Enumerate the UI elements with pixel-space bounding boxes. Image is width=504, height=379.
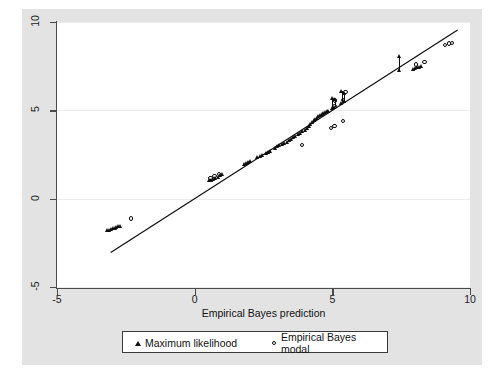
data-point-empirical-bayes-modal bbox=[217, 172, 221, 176]
data-point-maximum-likelihood bbox=[397, 68, 401, 72]
x-axis-title: Empirical Bayes prediction bbox=[57, 307, 470, 319]
gridline-y-0 bbox=[57, 199, 470, 200]
data-point-empirical-bayes-modal bbox=[332, 104, 336, 108]
y-tick-5 bbox=[50, 110, 56, 111]
y-tick-10 bbox=[50, 22, 56, 23]
data-point-maximum-likelihood bbox=[268, 149, 272, 153]
circle-marker-icon bbox=[267, 341, 281, 346]
y-tick--5 bbox=[50, 287, 56, 288]
x-tick-label-0: 0 bbox=[175, 293, 215, 305]
x-axis-line bbox=[56, 288, 471, 289]
y-axis-line bbox=[56, 21, 57, 288]
data-point-maximum-likelihood bbox=[248, 159, 252, 163]
x-tick-label-10: 10 bbox=[450, 293, 490, 305]
gridline-y-10 bbox=[57, 22, 470, 23]
legend-label-maximum-likelihood: Maximum likelihood bbox=[145, 337, 237, 349]
data-point-empirical-bayes-modal bbox=[333, 98, 337, 102]
x-tick-label-5: 5 bbox=[312, 293, 352, 305]
chart-legend: Maximum likelihood Empirical Bayes modal bbox=[122, 331, 388, 353]
y-tick-0 bbox=[50, 199, 56, 200]
x-tick-label--5: -5 bbox=[37, 293, 77, 305]
data-point-empirical-bayes-modal bbox=[341, 119, 345, 123]
data-point-empirical-bayes-modal bbox=[343, 90, 347, 94]
data-point-maximum-likelihood bbox=[397, 54, 401, 58]
y-tick-label-5: 5 bbox=[29, 96, 41, 122]
figure-root: -50510 -50510 Empirical Bayes prediction… bbox=[0, 0, 504, 379]
triangle-marker-icon bbox=[131, 341, 145, 346]
legend-label-empirical-bayes-modal: Empirical Bayes modal bbox=[281, 331, 387, 355]
data-point-maximum-likelihood bbox=[419, 64, 423, 68]
data-point-empirical-bayes-modal bbox=[332, 124, 336, 128]
legend-item-empirical-bayes-modal: Empirical Bayes modal bbox=[267, 332, 387, 354]
data-point-empirical-bayes-modal bbox=[129, 216, 133, 220]
data-point-empirical-bayes-modal bbox=[212, 174, 216, 178]
y-tick-label-0: 0 bbox=[29, 185, 41, 211]
gridline-y-5 bbox=[57, 110, 470, 111]
legend-item-maximum-likelihood: Maximum likelihood bbox=[131, 332, 237, 354]
data-point-maximum-likelihood bbox=[118, 224, 122, 228]
y-tick-label-10: 10 bbox=[29, 8, 41, 34]
